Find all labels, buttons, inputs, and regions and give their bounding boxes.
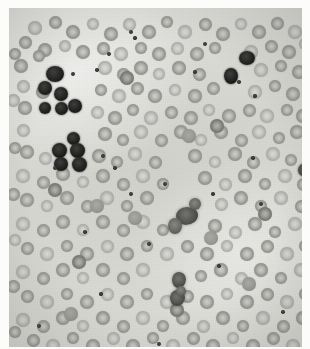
platelet <box>95 68 99 72</box>
erythrocyte <box>190 47 204 61</box>
erythrocyte <box>221 288 233 300</box>
erythrocyte <box>277 320 290 333</box>
erythrocyte <box>9 326 21 338</box>
erythrocyte <box>19 36 32 49</box>
erythrocyte <box>27 334 40 347</box>
erythrocyte <box>187 332 200 345</box>
erythrocyte <box>135 42 147 54</box>
erythrocyte <box>72 255 86 269</box>
erythrocyte <box>77 272 89 284</box>
erythrocyte <box>128 211 142 225</box>
erythrocyte <box>242 277 256 291</box>
erythrocyte <box>56 263 70 277</box>
platelet <box>99 292 102 295</box>
erythrocyte <box>152 47 166 61</box>
erythrocyte <box>41 200 53 212</box>
platelet <box>107 52 111 56</box>
erythrocyte <box>96 169 110 183</box>
erythrocyte <box>149 156 162 169</box>
erythrocyte <box>9 234 21 246</box>
erythrocyte <box>195 270 207 282</box>
erythrocyte <box>215 198 228 211</box>
erythrocyte <box>200 247 214 261</box>
erythrocyte <box>104 27 118 41</box>
erythrocyte <box>96 215 110 229</box>
nucleated-cell <box>46 66 64 82</box>
erythrocyte <box>141 288 153 300</box>
erythrocyte <box>144 111 158 125</box>
erythrocyte <box>271 17 284 30</box>
erythrocyte <box>203 104 215 116</box>
erythrocyte <box>148 89 162 103</box>
erythrocyte <box>286 87 300 101</box>
erythrocyte <box>169 84 181 96</box>
nucleated-cell <box>70 143 85 158</box>
nucleated-cell <box>68 99 82 113</box>
erythrocyte <box>131 82 144 95</box>
erythrocyte <box>216 27 230 41</box>
platelet <box>147 242 151 246</box>
erythrocyte <box>136 311 150 325</box>
erythrocyte <box>17 124 30 137</box>
erythrocyte <box>210 119 224 133</box>
nucleated-cell <box>38 81 52 95</box>
platelet <box>157 342 161 346</box>
erythrocyte <box>61 240 73 252</box>
erythrocyte <box>128 147 142 161</box>
erythrocyte <box>204 231 218 245</box>
erythrocyte <box>254 263 268 277</box>
dark-cell-clump <box>189 198 201 210</box>
platelet <box>211 192 214 195</box>
platelet <box>101 154 105 158</box>
erythrocyte <box>117 272 130 285</box>
erythrocyte <box>112 89 126 103</box>
erythrocyte <box>235 18 247 30</box>
erythrocyte <box>21 242 34 255</box>
erythrocyte <box>117 134 129 146</box>
erythrocyte <box>280 247 294 261</box>
erythrocyte <box>254 63 268 77</box>
erythrocyte <box>261 288 274 301</box>
erythrocyte <box>288 217 302 231</box>
nucleated-cell <box>224 68 238 84</box>
erythrocyte <box>258 207 272 221</box>
erythrocyte <box>20 193 34 207</box>
platelet <box>253 94 256 97</box>
erythrocyte <box>9 188 20 201</box>
erythrocyte <box>96 311 110 325</box>
micrograph-viewport <box>0 0 310 349</box>
erythrocyte <box>120 247 134 261</box>
erythrocyte <box>288 25 302 39</box>
dark-cell-clump <box>176 286 186 296</box>
erythrocyte <box>20 145 34 159</box>
platelet <box>237 80 241 84</box>
erythrocyte <box>16 313 30 327</box>
erythrocyte <box>77 320 89 332</box>
erythrocyte <box>46 339 60 347</box>
erythrocyte <box>21 290 34 303</box>
erythrocyte <box>157 320 169 332</box>
erythrocyte <box>207 82 220 95</box>
erythrocyte <box>219 178 232 191</box>
erythrocyte <box>39 152 52 165</box>
erythrocyte <box>126 339 140 347</box>
erythrocyte <box>198 171 212 185</box>
erythrocyte <box>142 25 156 39</box>
erythrocyte <box>155 134 168 147</box>
erythrocyte <box>256 311 270 325</box>
erythrocyte <box>161 16 173 28</box>
erythrocyte <box>188 149 202 163</box>
nucleated-cell <box>54 87 68 101</box>
erythrocyte <box>246 339 260 347</box>
erythrocyte <box>197 320 210 333</box>
erythrocyte <box>117 178 130 191</box>
erythrocyte <box>127 104 139 116</box>
erythrocyte <box>37 224 50 237</box>
erythrocyte <box>134 61 148 75</box>
erythrocyte <box>275 272 287 284</box>
erythrocyte <box>171 42 184 55</box>
erythrocyte <box>14 59 28 73</box>
erythrocyte <box>9 48 21 60</box>
erythrocyte <box>222 109 236 123</box>
platelet <box>83 230 87 234</box>
